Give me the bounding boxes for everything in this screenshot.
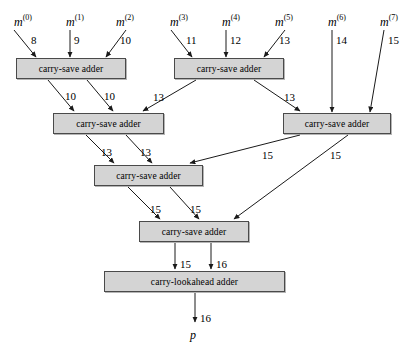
output-signal-label: p bbox=[190, 328, 196, 343]
adder-box-csa1: carry-save adder bbox=[16, 58, 126, 79]
input-bitwidth-label-m0: 8 bbox=[31, 34, 37, 46]
wire-bitwidth-label-csa5-csa6-8: 15 bbox=[150, 203, 161, 215]
input-signal-name: m bbox=[222, 15, 231, 29]
adder-box-label: carry-lookahead adder bbox=[151, 277, 238, 287]
wire-csa2-to-csa3 bbox=[143, 80, 196, 111]
adder-box-label: carry-save adder bbox=[76, 119, 141, 129]
input-signal-index: (5) bbox=[284, 13, 293, 22]
input-signal-m0: m(0) bbox=[14, 14, 32, 30]
input-bitwidth-label-m6: 14 bbox=[336, 34, 347, 46]
input-signal-m3: m(3) bbox=[170, 14, 188, 30]
input-signal-index: (0) bbox=[23, 13, 32, 22]
input-bitwidth-label-m4: 12 bbox=[230, 34, 241, 46]
adder-box-csa2: carry-save adder bbox=[174, 58, 284, 79]
input-signal-m5: m(5) bbox=[275, 14, 293, 30]
adder-box-cla: carry-lookahead adder bbox=[104, 271, 285, 292]
input-signal-m2: m(2) bbox=[116, 14, 134, 30]
wire-bitwidth-label-csa6-cla-11: 16 bbox=[216, 258, 227, 270]
input-bitwidth-label-m5: 13 bbox=[279, 34, 290, 46]
input-signal-name: m bbox=[66, 15, 75, 29]
adder-box-label: carry-save adder bbox=[39, 64, 104, 74]
input-signal-name: m bbox=[170, 15, 179, 29]
input-signal-name: m bbox=[380, 15, 389, 29]
wire-bitwidth-label-csa2-csa3-2: 13 bbox=[153, 91, 164, 103]
input-wire-m7 bbox=[370, 30, 384, 112]
input-signal-name: m bbox=[275, 15, 284, 29]
input-bitwidth-label-m7: 15 bbox=[388, 34, 399, 46]
input-signal-index: (3) bbox=[179, 13, 188, 22]
input-bitwidth-label-m3: 11 bbox=[186, 34, 197, 46]
adder-box-label: carry-save adder bbox=[305, 119, 370, 129]
carry-save-adder-tree-diagram: carry-save addercarry-save addercarry-sa… bbox=[0, 0, 411, 355]
wire-bitwidth-label-csa1-csa3-0: 10 bbox=[65, 90, 76, 102]
input-signal-name: m bbox=[328, 15, 337, 29]
input-signal-m4: m(4) bbox=[222, 14, 240, 30]
adder-box-csa6: carry-save adder bbox=[139, 221, 249, 242]
input-signal-m6: m(6) bbox=[328, 14, 346, 30]
adder-box-csa5: carry-save adder bbox=[94, 165, 203, 186]
adder-box-csa3: carry-save adder bbox=[53, 113, 164, 134]
input-signal-m7: m(7) bbox=[380, 14, 398, 30]
wire-bitwidth-label-csa4-csa5-6: 15 bbox=[262, 149, 273, 161]
wire-csa4-to-csa5 bbox=[190, 135, 300, 163]
input-signal-name: m bbox=[116, 15, 125, 29]
wire-bitwidth-label-csa5-csa6-9: 15 bbox=[190, 203, 201, 215]
wire-bitwidth-label-cla-p-12: 16 bbox=[200, 312, 211, 324]
adder-box-label: carry-save adder bbox=[197, 64, 262, 74]
wire-bitwidth-label-csa3-csa5-5: 13 bbox=[140, 146, 151, 158]
input-signal-index: (7) bbox=[389, 13, 398, 22]
wire-bitwidth-label-csa3-csa5-4: 13 bbox=[101, 146, 112, 158]
input-signal-index: (2) bbox=[125, 13, 134, 22]
adder-box-csa4: carry-save adder bbox=[283, 113, 391, 134]
input-signal-name: m bbox=[14, 15, 23, 29]
input-signal-index: (4) bbox=[231, 13, 240, 22]
wire-bitwidth-label-csa2-csa4-3: 13 bbox=[284, 91, 295, 103]
input-signal-m1: m(1) bbox=[66, 14, 84, 30]
wire-bitwidth-label-csa1-csa3-1: 10 bbox=[104, 90, 115, 102]
wire-bitwidth-label-csa6-cla-10: 15 bbox=[180, 258, 191, 270]
adder-box-label: carry-save adder bbox=[162, 227, 227, 237]
input-signal-index: (6) bbox=[337, 13, 346, 22]
wire-bitwidth-label-csa4-csa6-7: 15 bbox=[330, 149, 341, 161]
input-bitwidth-label-m1: 9 bbox=[74, 34, 80, 46]
input-signal-index: (1) bbox=[75, 13, 84, 22]
input-bitwidth-label-m2: 10 bbox=[120, 34, 131, 46]
wire-layer bbox=[0, 0, 411, 355]
adder-box-label: carry-save adder bbox=[116, 171, 181, 181]
